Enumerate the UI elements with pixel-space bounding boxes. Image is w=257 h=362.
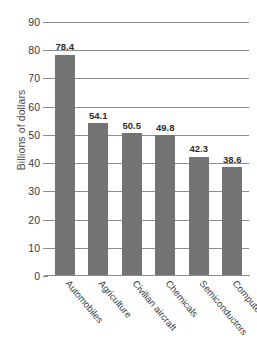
y-tick-label: 0 (6, 271, 40, 282)
y-tick-mark (43, 276, 48, 277)
bars: 78.454.150.549.842.338.6 (48, 22, 249, 276)
y-tick-label: 20 (6, 214, 40, 225)
y-tick-label: 70 (6, 73, 40, 84)
x-axis-line (44, 275, 250, 276)
bar-slot: 49.8 (155, 22, 175, 276)
bar-slot: 54.1 (88, 22, 108, 276)
x-axis-label: Computers (231, 278, 239, 285)
bar[interactable] (222, 167, 242, 276)
bar-chart: Billions of dollars 0102030405060708090 … (0, 0, 257, 362)
bar[interactable] (122, 133, 142, 276)
plot-area: 0102030405060708090 78.454.150.549.842.3… (48, 22, 249, 276)
y-tick-label: 10 (6, 243, 40, 254)
x-axis-label: Civilian aircraft (130, 278, 138, 285)
x-axis-label: Automobiles (63, 278, 71, 285)
y-tick-label: 80 (6, 45, 40, 56)
bar-slot: 50.5 (122, 22, 142, 276)
bar-slot: 38.6 (222, 22, 242, 276)
bar[interactable] (155, 135, 175, 276)
x-axis-label: Semiconductors (197, 278, 205, 285)
bar-value-label: 54.1 (89, 111, 108, 121)
bar-slot: 42.3 (189, 22, 209, 276)
bar-value-label: 49.8 (156, 123, 175, 133)
bar[interactable] (88, 123, 108, 276)
bar[interactable] (55, 55, 75, 276)
x-axis-label: Agriculture (97, 278, 105, 285)
y-tick-label: 40 (6, 158, 40, 169)
y-tick-label: 60 (6, 101, 40, 112)
y-tick-label: 90 (6, 17, 40, 28)
bar-slot: 78.4 (55, 22, 75, 276)
bar-value-label: 78.4 (56, 42, 75, 52)
x-axis-label: Chemicals (164, 278, 172, 285)
bar-value-label: 38.6 (223, 155, 242, 165)
bar-value-label: 42.3 (190, 144, 209, 154)
bar-value-label: 50.5 (123, 121, 142, 131)
bar[interactable] (189, 157, 209, 276)
x-axis-labels: AutomobilesAgricultureCivilian aircraftC… (48, 278, 249, 362)
y-tick-label: 50 (6, 130, 40, 141)
y-tick-label: 30 (6, 186, 40, 197)
